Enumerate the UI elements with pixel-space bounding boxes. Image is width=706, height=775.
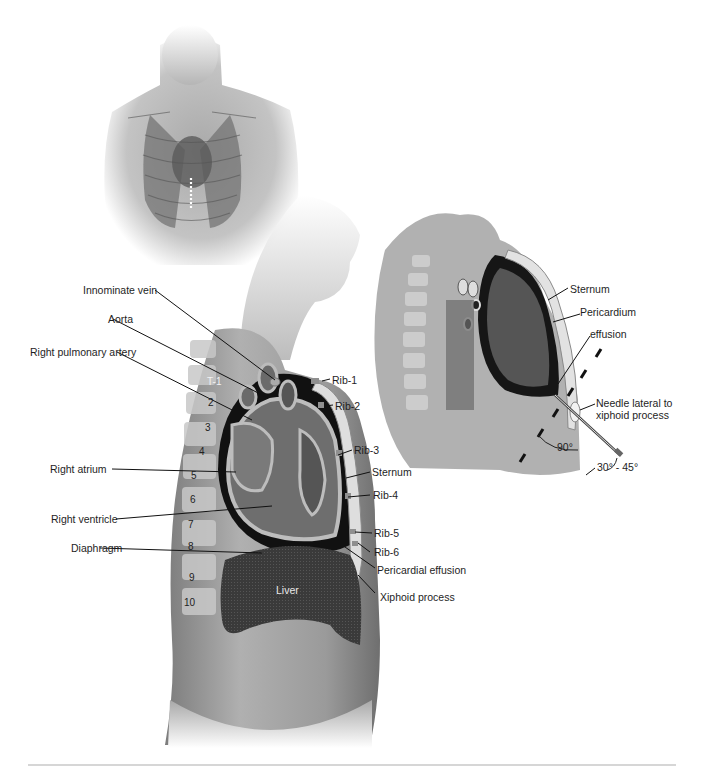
frontal-torso-figure [104, 25, 298, 265]
label-pericardial-effusion: Pericardial effusion [377, 564, 466, 576]
label-sternum-main: Sternum [372, 466, 412, 478]
label-rib-2: Rib-2 [335, 400, 360, 412]
label-rib-6: Rib-6 [374, 546, 399, 558]
label-right-pulmonary-artery: Right pulmonary artery [30, 346, 136, 358]
bottom-divider [28, 764, 676, 766]
label-pericardium: Pericardium [580, 306, 636, 318]
label-effusion: effusion [590, 328, 627, 340]
label-right-atrium: Right atrium [50, 463, 107, 475]
vertebra-3: 3 [205, 422, 211, 433]
vertebra-8: 8 [188, 541, 194, 552]
vertebra-9: 9 [189, 572, 195, 583]
vertebra-5: 5 [191, 470, 197, 481]
label-rib-4: Rib-4 [373, 489, 398, 501]
vertebra-6: 6 [190, 494, 196, 505]
label-needle-line1: Needle lateral to [596, 397, 672, 409]
label-angle-range: 30° - 45° [597, 461, 638, 473]
anatomy-illustration [0, 0, 706, 775]
label-rib-1: Rib-1 [332, 374, 357, 386]
label-innominate-vein: Innominate vein [83, 284, 157, 296]
label-sternum-needle-panel: Sternum [570, 283, 610, 295]
vertebra-10: 10 [184, 597, 195, 608]
label-aorta: Aorta [108, 313, 133, 325]
label-rib-3: Rib-3 [354, 444, 379, 456]
label-rib-5: Rib-5 [374, 527, 399, 539]
label-right-ventricle: Right ventricle [51, 513, 118, 525]
vertebra-t1: T-1 [207, 376, 221, 387]
label-needle-line2: xiphoid process [596, 409, 669, 421]
label-diaphragm: Diaphragm [71, 542, 122, 554]
label-liver: Liver [276, 584, 299, 596]
vertebra-7: 7 [188, 519, 194, 530]
sagittal-needle-figure [374, 213, 623, 475]
vertebra-2: 2 [208, 397, 214, 408]
label-angle-90: 90° [557, 441, 573, 453]
label-xiphoid-process: Xiphoid process [380, 591, 455, 603]
vertebra-4: 4 [199, 446, 205, 457]
